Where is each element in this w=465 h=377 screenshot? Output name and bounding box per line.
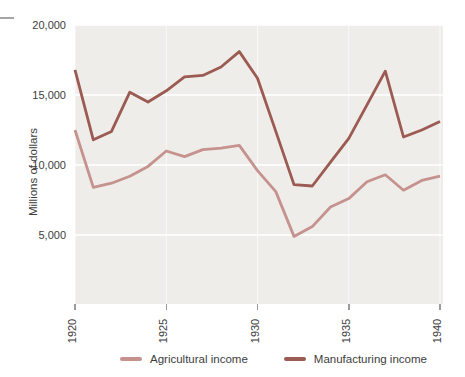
plot-area	[75, 25, 443, 304]
x-tick-mark	[257, 304, 259, 310]
x-tick-mark	[348, 304, 350, 310]
legend: Agricultural incomeManufacturing income	[120, 353, 427, 365]
legend-label: Agricultural income	[150, 353, 248, 365]
x-tick-mark	[74, 304, 76, 310]
y-tick-label: 15,000	[4, 89, 66, 102]
chart-lines-svg	[75, 25, 443, 304]
y-axis-title: Millions of dollars	[27, 128, 39, 216]
legend-line-swatch	[120, 357, 142, 361]
y-tick-label: 20,000	[4, 19, 66, 32]
x-tick-label: 1925	[157, 319, 169, 343]
legend-item: Manufacturing income	[284, 353, 427, 365]
income-line-chart-figure: Millions of dollars 20,00015,00010,0005,…	[0, 0, 465, 377]
x-tick-mark	[439, 304, 441, 310]
y-tick-label: 5,000	[4, 229, 66, 242]
x-tick-label: 1930	[249, 319, 261, 343]
x-tick-label: 1920	[66, 319, 78, 343]
legend-item: Agricultural income	[120, 353, 248, 365]
x-tick-label: 1935	[340, 319, 352, 343]
legend-line-swatch	[284, 357, 306, 361]
x-tick-mark	[166, 304, 168, 310]
x-tick-label: 1940	[431, 319, 443, 343]
legend-label: Manufacturing income	[314, 353, 427, 365]
y-tick-label: 10,000	[4, 159, 66, 172]
